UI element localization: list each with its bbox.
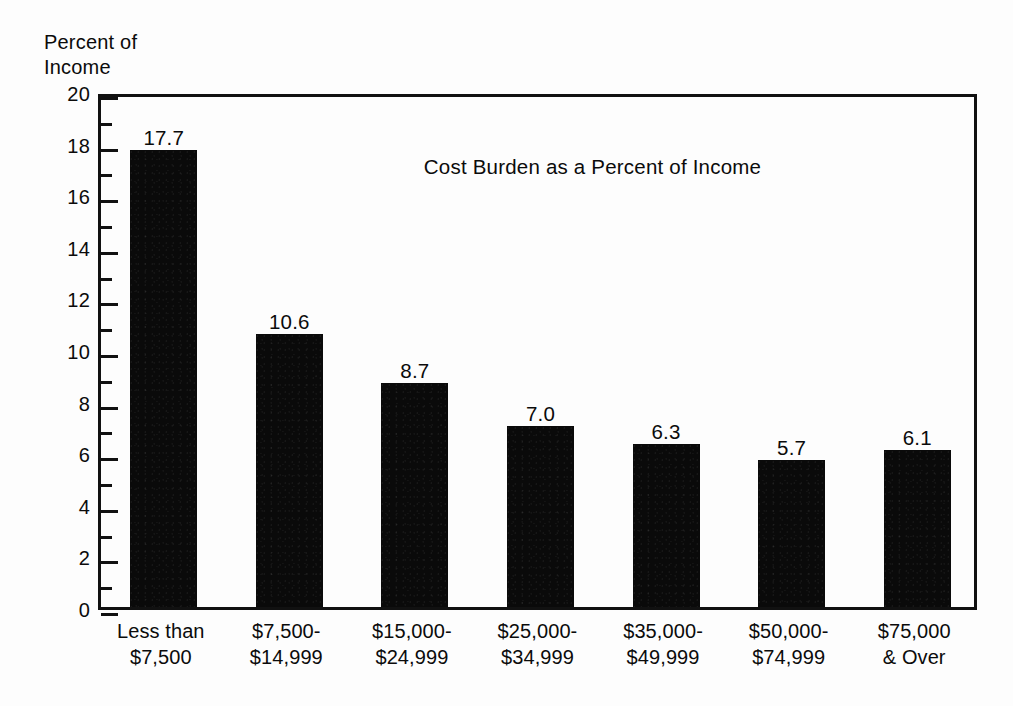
y-axis-tick-label: 14: [44, 237, 90, 260]
bar-value-label: 10.6: [229, 310, 349, 334]
y-axis-tick-labels: 20181614121086420: [40, 94, 90, 610]
y-axis-minor-tick: [101, 432, 112, 435]
plot-area: Cost Burden as a Percent of Income 17.71…: [98, 94, 977, 610]
y-axis-major-tick: [101, 200, 118, 203]
bar-value-label: 6.3: [606, 420, 726, 444]
bar: [381, 383, 448, 607]
y-axis-major-tick: [101, 613, 118, 616]
bar-value-label: 17.7: [104, 126, 224, 150]
y-axis-major-tick: [101, 561, 118, 564]
y-axis-minor-tick: [101, 484, 112, 487]
x-axis-category-label: $75,000 & Over: [834, 618, 994, 670]
y-axis-tick-label: 12: [44, 289, 90, 312]
bar: [633, 444, 700, 607]
bar: [256, 334, 323, 607]
y-axis-major-tick: [101, 97, 118, 100]
y-axis-tick-label: 4: [44, 495, 90, 518]
y-axis-major-tick: [101, 510, 118, 513]
y-axis-major-tick: [101, 407, 118, 410]
bar: [758, 460, 825, 607]
y-axis-minor-tick: [101, 278, 112, 281]
bar-value-label: 8.7: [355, 359, 475, 383]
y-axis-tick-label: 6: [44, 444, 90, 467]
bar-value-label: 5.7: [732, 436, 852, 460]
y-axis-minor-tick: [101, 174, 112, 177]
bar: [884, 450, 951, 607]
bar-value-label: 7.0: [481, 402, 601, 426]
y-axis-tick-label: 2: [44, 547, 90, 570]
chart-title: Cost Burden as a Percent of Income: [101, 155, 974, 179]
y-axis-major-tick: [101, 355, 118, 358]
y-axis-minor-tick: [101, 587, 112, 590]
chart-page: Percent of Income 20181614121086420 Cost…: [0, 0, 1013, 706]
y-axis-tick-label: 18: [44, 134, 90, 157]
y-axis-tick-label: 8: [44, 392, 90, 415]
x-axis-category-labels: Less than $7,500$7,500- $14,999$15,000- …: [98, 618, 977, 688]
y-axis-minor-tick: [101, 329, 112, 332]
y-axis-minor-tick: [101, 226, 112, 229]
y-axis-major-tick: [101, 303, 118, 306]
y-axis-tick-label: 16: [44, 186, 90, 209]
bar: [507, 426, 574, 607]
y-axis-tick-label: 20: [44, 83, 90, 106]
y-axis-major-tick: [101, 458, 118, 461]
y-axis-tick-label: 10: [44, 341, 90, 364]
y-axis-minor-tick: [101, 536, 112, 539]
bar: [130, 150, 197, 607]
y-axis-minor-tick: [101, 381, 112, 384]
y-axis-major-tick: [101, 252, 118, 255]
y-axis-title: Percent of Income: [44, 30, 137, 80]
bar-value-label: 6.1: [857, 426, 977, 450]
